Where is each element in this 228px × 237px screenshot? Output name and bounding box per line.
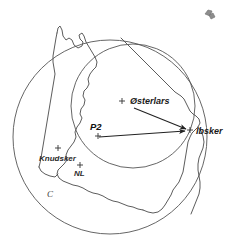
arrow-p2-ibsker (99, 131, 185, 137)
coastline-far-east (191, 127, 204, 214)
cross-marker-ibsker (187, 127, 193, 133)
artifact-glyph (205, 10, 215, 19)
cross-marker-nl (77, 162, 83, 168)
label-osterlars: Østerlars (130, 96, 170, 106)
coastline-east (39, 33, 57, 167)
coastline-southeast (121, 38, 200, 213)
label-ibsker: Ibsker (196, 126, 223, 136)
coastline-group (39, 26, 204, 214)
cross-marker-osterlars (119, 98, 125, 104)
cross-marker-p2 (95, 133, 101, 139)
inner-range-circle (71, 44, 195, 168)
coastline-north-tip (39, 167, 58, 177)
cross-marker-knudsker (55, 145, 61, 151)
label-p2: P2 (90, 121, 102, 132)
arrow-osterlars-ibsker (134, 108, 186, 129)
label-nl: NL (74, 169, 85, 178)
outer-range-circle (13, 40, 207, 234)
label-knudsker: Knudsker (39, 154, 77, 163)
label-outer-circle: C (47, 189, 54, 199)
map-figure: Østerlars Ibsker Knudsker NL P2 C (0, 0, 228, 237)
